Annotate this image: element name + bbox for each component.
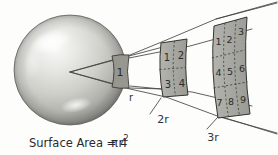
patch-r-cell-1: 1 <box>117 66 124 79</box>
patch-2r-cell-4: 4 <box>179 78 185 89</box>
patch-3r-cell-2: 2 <box>226 34 232 45</box>
inverse-square-law-figure: 1 1 2 3 4 1 2 3 4 <box>0 0 278 155</box>
surface-area-caption: Surface Area = 4 π r 2 <box>29 134 129 150</box>
patch-3r-cell-7: 7 <box>216 97 222 108</box>
caption-pi-symbol: π <box>111 136 118 150</box>
distance-label-3r: 3r <box>207 131 219 144</box>
patch-3r-cell-1: 1 <box>215 36 221 47</box>
caption-exponent: 2 <box>124 134 129 143</box>
ray-extension-upper <box>216 2 277 19</box>
patch-3r-cell-9: 9 <box>240 94 246 105</box>
patch-at-3r[interactable]: 1 2 3 4 5 6 7 8 9 <box>212 17 250 118</box>
patch-at-2r[interactable]: 1 2 3 4 <box>160 39 189 97</box>
patch-3r-cell-3: 3 <box>238 26 244 37</box>
distance-label-r: r <box>129 92 134 103</box>
patch-3r-cell-8: 8 <box>228 96 234 107</box>
patch-3r-cell-6: 6 <box>239 63 245 74</box>
patch-at-r[interactable]: 1 <box>112 55 129 89</box>
patch-2r-cell-1: 1 <box>164 52 170 63</box>
patch-3r-cell-5: 5 <box>227 66 233 77</box>
tick-3r <box>207 117 218 129</box>
tick-2r <box>150 98 161 114</box>
patch-3r-cell-4: 4 <box>215 67 221 78</box>
diagram-canvas: 1 1 2 3 4 1 2 3 4 <box>0 0 278 155</box>
ray-extension-lower <box>222 117 277 134</box>
sphere-group <box>14 15 126 125</box>
patch-2r-cell-2: 2 <box>178 50 184 61</box>
distance-label-2r: 2r <box>157 113 169 126</box>
patch-2r-cell-3: 3 <box>165 79 171 90</box>
